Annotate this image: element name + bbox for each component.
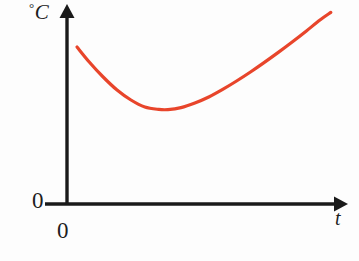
y-axis-arrowhead-icon [60, 4, 75, 18]
temperature-time-graph-figure: °C 0 0 t [0, 0, 359, 261]
y-axis-unit-letter: C [35, 0, 49, 24]
y-axis [60, 4, 75, 205]
x-axis-variable-label: t [335, 208, 341, 228]
plot-canvas [0, 0, 359, 261]
x-axis-origin-label: 0 [57, 219, 69, 242]
y-axis-origin-label: 0 [32, 189, 44, 212]
temperature-curve [77, 12, 331, 109]
y-axis-unit-label: °C [29, 1, 49, 23]
x-axis [45, 197, 348, 212]
